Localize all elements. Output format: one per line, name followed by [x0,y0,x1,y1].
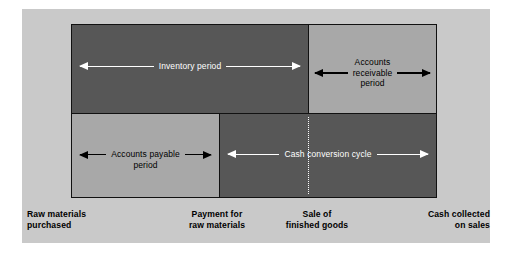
event-label-raw-materials-purchased: Raw materials purchased [27,209,137,231]
accounts-receivable-period-label: Accounts receivable period [353,57,393,89]
event-label-payment-for-raw-materials: Payment for raw materials [162,209,272,231]
event-label-cash-collected-on-sales: Cash collected on sales [380,209,490,231]
cash-conversion-cycle-label: Cash conversion cycle [284,149,371,160]
timeline-block-grid: Inventory period Accounts receivable per… [71,24,437,198]
accounts-receivable-period-block: Accounts receivable period [308,24,437,114]
arrow-right-icon [397,72,430,74]
arrow-left-icon [315,72,348,74]
arrow-left-icon [228,154,279,156]
accounts-receivable-period-measure: Accounts receivable period [315,57,430,89]
accounts-payable-period-block: Accounts payable period [71,113,220,198]
arrow-left-icon [80,154,106,156]
arrow-left-icon [80,66,154,68]
arrow-right-icon [226,66,300,68]
accounts-payable-period-label: Accounts payable period [111,149,180,170]
diagram-panel: Inventory period Accounts receivable per… [22,9,490,243]
accounts-payable-period-measure: Accounts payable period [80,144,211,165]
inventory-period-label: Inventory period [159,61,222,72]
event-label-sale-of-finished-goods: Sale of finished goods [262,209,372,231]
cash-conversion-cycle-measure: Cash conversion cycle [228,149,428,160]
inventory-period-block: Inventory period [71,24,309,114]
arrow-right-icon [185,154,211,156]
inventory-period-measure: Inventory period [80,61,300,72]
cash-conversion-cycle-block: Cash conversion cycle [219,113,437,198]
arrow-right-icon [377,154,428,156]
